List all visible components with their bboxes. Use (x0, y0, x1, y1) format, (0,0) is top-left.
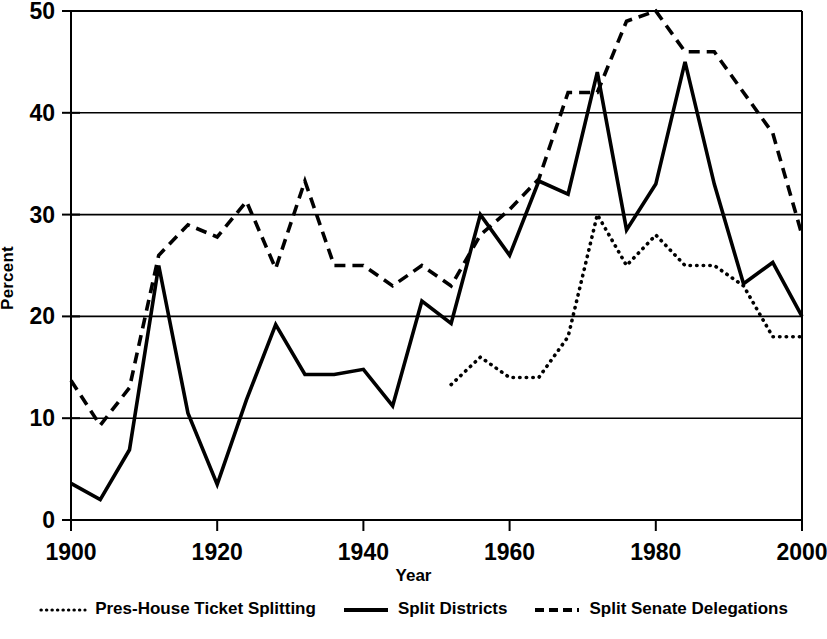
x-axis-tick-label: 1920 (192, 539, 243, 565)
legend-item-split-districts[interactable]: Split Districts (342, 600, 508, 617)
y-axis-tick-label: 50 (29, 0, 55, 24)
y-axis-label: Percent (0, 110, 18, 230)
plot-area: 01020304050190019201940196019802000 (0, 0, 827, 585)
y-axis-tick-label: 10 (29, 405, 55, 431)
series-line-dotted (451, 215, 802, 385)
chart-page: 01020304050190019201940196019802000 Perc… (0, 0, 827, 639)
legend-item-split-senate[interactable]: Split Senate Delegations (533, 600, 787, 617)
legend-label-split-senate: Split Senate Delegations (589, 600, 787, 617)
x-axis-tick-label: 1900 (45, 539, 96, 565)
series-line-dashed (71, 11, 802, 425)
y-axis-tick-label: 30 (29, 202, 55, 228)
series-line-solid (71, 62, 802, 500)
chart-legend: Pres-House Ticket Splitting Split Distri… (0, 600, 827, 617)
legend-swatch-dashed-icon (533, 602, 581, 616)
y-axis-label-text: Percent (0, 218, 18, 338)
legend-swatch-solid-icon (342, 602, 390, 616)
y-axis-tick-label: 40 (29, 100, 55, 126)
x-axis-tick-label: 2000 (776, 539, 827, 565)
legend-label-split-districts: Split Districts (398, 600, 508, 617)
legend-label-pres-house: Pres-House Ticket Splitting (95, 600, 316, 617)
y-axis-tick-label: 0 (42, 507, 55, 533)
x-axis-tick-label: 1980 (630, 539, 681, 565)
legend-swatch-dotted-icon (39, 602, 87, 616)
x-axis-label: Year (0, 566, 827, 586)
line-chart: 01020304050190019201940196019802000 (0, 0, 827, 585)
x-axis-tick-label: 1960 (484, 539, 535, 565)
legend-item-pres-house[interactable]: Pres-House Ticket Splitting (39, 600, 316, 617)
x-axis-tick-label: 1940 (338, 539, 389, 565)
y-axis-tick-label: 20 (29, 303, 55, 329)
